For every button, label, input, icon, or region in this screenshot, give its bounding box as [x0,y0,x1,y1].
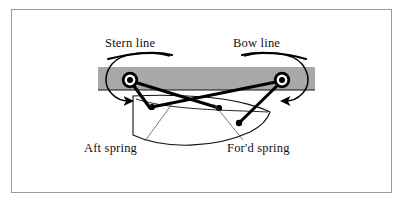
bollard-right [274,72,290,88]
label-bow-line: Bow line [233,36,280,51]
aft-spring-leader [145,104,172,141]
stern-line-underline [108,53,172,59]
label-aft-spring: Aft spring [84,141,137,156]
figure-page: Stern line Bow line Aft spring For'd spr… [0,0,405,204]
mooring-diagram [0,0,405,204]
rope-ford-spring-endpoint [236,120,242,126]
label-ford-spring: For'd spring [227,141,290,156]
label-stern-line: Stern line [105,36,155,51]
bollard-left [122,72,138,88]
bow-line-underline [242,53,306,59]
